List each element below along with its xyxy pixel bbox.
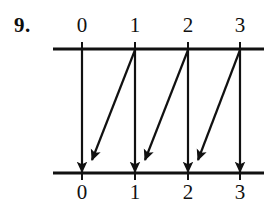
top-axis-label-2: 2 <box>175 13 201 37</box>
bottom-axis-label-3: 3 <box>227 180 253 204</box>
arrow-1-to-0 <box>92 50 135 160</box>
figure-page: 9. 01230123 <box>0 0 276 221</box>
bottom-axis-label-2: 2 <box>175 180 201 204</box>
bottom-axis-label-1: 1 <box>122 180 148 204</box>
arrow-3-to-2 <box>198 50 240 160</box>
top-axis-label-1: 1 <box>122 13 148 37</box>
top-axis-label-0: 0 <box>69 13 95 37</box>
top-axis-label-3: 3 <box>227 13 253 37</box>
arrow-2-to-1 <box>145 50 188 160</box>
arrow-layer <box>82 49 240 172</box>
bottom-axis-label-0: 0 <box>69 180 95 204</box>
